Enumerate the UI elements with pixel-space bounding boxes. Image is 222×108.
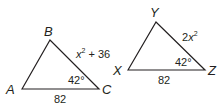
side-ac-label: 82 [54, 93, 66, 105]
vertex-b-label: B [44, 24, 53, 39]
triangle-xyz: X Y Z 2x2 42° 82 [112, 5, 217, 86]
triangle-abc: A B C x2 + 36 42° 82 [5, 24, 112, 105]
side-xz-label: 82 [158, 74, 170, 86]
vertex-x-label: X [112, 63, 123, 78]
congruent-triangles-diagram: A B C x2 + 36 42° 82 X Y Z 2x2 42° 82 [0, 0, 222, 108]
side-yz-label: 2x2 [182, 30, 198, 43]
angle-c-label: 42° [68, 74, 85, 86]
vertex-z-label: Z [207, 63, 217, 78]
vertex-y-label: Y [150, 5, 160, 20]
vertex-a-label: A [5, 82, 15, 97]
vertex-c-label: C [102, 82, 112, 97]
side-bc-label: x2 + 36 [75, 47, 110, 60]
angle-z-label: 42° [175, 56, 192, 68]
